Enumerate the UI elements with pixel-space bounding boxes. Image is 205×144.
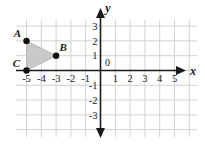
y-axis-arrow-up bbox=[96, 8, 105, 18]
point-label-c: C bbox=[13, 57, 21, 69]
y-tick-label: -2 bbox=[89, 95, 98, 106]
x-tick-label: -5 bbox=[22, 73, 31, 84]
y-tick-label: -3 bbox=[89, 110, 98, 121]
data-point-a bbox=[23, 38, 29, 44]
x-axis-arrow bbox=[176, 66, 186, 75]
y-tick-label: 3 bbox=[92, 21, 97, 32]
y-axis-label: y bbox=[103, 1, 111, 15]
y-tick-label: 2 bbox=[92, 36, 97, 47]
data-point-c bbox=[23, 67, 29, 73]
point-label-b: B bbox=[58, 41, 66, 53]
data-point-b bbox=[53, 53, 59, 59]
y-axis-arrow-down bbox=[96, 128, 105, 138]
x-tick-label: 3 bbox=[142, 73, 147, 84]
x-tick-label: -2 bbox=[67, 73, 76, 84]
x-tick-label: 2 bbox=[127, 73, 132, 84]
coordinate-plot: -5-4-3-2-112345321-1-2-3 ABC x y 0 bbox=[0, 0, 205, 144]
y-tick-label: 1 bbox=[92, 50, 97, 61]
x-tick-label: 1 bbox=[113, 73, 118, 84]
y-tick-label: -1 bbox=[89, 80, 98, 91]
x-tick-label: 5 bbox=[172, 73, 177, 84]
x-axis-label: x bbox=[189, 64, 196, 78]
origin-label: 0 bbox=[105, 57, 110, 68]
x-tick-label: -4 bbox=[37, 73, 46, 84]
coordinate-plane-figure: ) -5-4-3-2-112345321-1-2-3 ABC x y 0 bbox=[0, 0, 205, 144]
x-tick-label: 4 bbox=[157, 73, 163, 84]
point-label-a: A bbox=[13, 27, 21, 39]
x-tick-label: -3 bbox=[52, 73, 61, 84]
